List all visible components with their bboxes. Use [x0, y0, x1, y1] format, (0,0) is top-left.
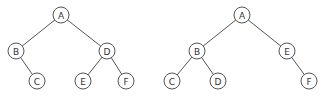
node-label: F: [123, 77, 128, 87]
node-label: B: [13, 47, 19, 57]
tree-node-B: B: [8, 43, 24, 59]
edge-A-E: [242, 15, 287, 51]
node-label: F: [306, 77, 311, 87]
node-label: E: [80, 77, 86, 87]
tree-node-E: E: [279, 43, 295, 59]
edge-A-B: [16, 15, 61, 51]
node-label: A: [58, 11, 65, 21]
edge-A-B: [197, 15, 242, 51]
tree-diagram-canvas: ABCDEF ABCDEF: [0, 0, 322, 96]
tree-node-B: B: [189, 43, 205, 59]
tree-node-D: D: [210, 73, 226, 89]
node-label: C: [34, 77, 40, 87]
tree-node-D: D: [99, 43, 115, 59]
tree-node-C: C: [29, 73, 45, 89]
tree-node-A: A: [53, 7, 69, 23]
node-label: E: [284, 47, 290, 57]
edge-A-D: [61, 15, 107, 51]
tree-node-C: C: [164, 73, 180, 89]
node-label: D: [104, 47, 111, 57]
node-label: B: [194, 47, 200, 57]
tree-node-F: F: [301, 73, 317, 89]
node-label: D: [215, 77, 222, 87]
tree-node-A: A: [234, 7, 250, 23]
tree-node-F: F: [118, 73, 134, 89]
binary-tree-1: ABCDEF: [8, 7, 134, 89]
tree-node-E: E: [75, 73, 91, 89]
binary-tree-2: ABCDEF: [164, 7, 317, 89]
node-label: C: [169, 77, 175, 87]
node-label: A: [239, 11, 246, 21]
